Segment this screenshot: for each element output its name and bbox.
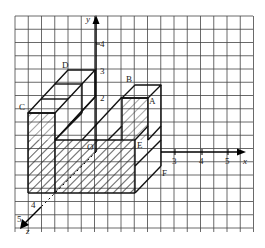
y-tick-4: 4 (100, 39, 105, 49)
point-a-label: A (149, 96, 156, 106)
x-tick-4: 4 (199, 156, 204, 166)
x-tick-5: 5 (225, 156, 230, 166)
diagram-canvas: 4 3 2 y 3 4 5 x 4 5 z O A B C D E F (0, 0, 265, 248)
x-tick-3: 3 (172, 156, 177, 166)
z-tick-4: 4 (31, 200, 36, 210)
point-e-label: E (137, 140, 143, 150)
y-axis-label: y (85, 14, 90, 24)
point-b-label: B (126, 74, 132, 84)
y-tick-3: 3 (100, 66, 105, 76)
x-axis-label: x (242, 156, 247, 166)
point-d-label: D (62, 60, 69, 70)
z-axis-label: z (25, 226, 30, 236)
point-f-label: F (162, 168, 167, 178)
origin-label: O (87, 142, 94, 152)
z-tick-5: 5 (17, 214, 22, 224)
z-axis-ticks: 4 5 z (17, 200, 36, 236)
y-tick-2: 2 (100, 93, 105, 103)
point-c-label: C (19, 102, 25, 112)
